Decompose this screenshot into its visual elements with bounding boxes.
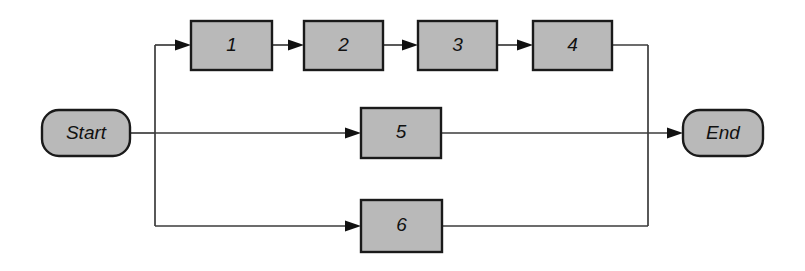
node-start[interactable]: Start xyxy=(42,110,130,156)
node-task-5[interactable]: 5 xyxy=(361,108,441,158)
arrowhead-into-task-6 xyxy=(345,221,361,232)
arrowhead-into-end xyxy=(667,128,683,139)
diagram-canvas: Start End 1 2 3 4 5 xyxy=(0,0,805,271)
node-end[interactable]: End xyxy=(683,110,763,156)
task-3-label: 3 xyxy=(452,34,463,55)
node-task-6[interactable]: 6 xyxy=(361,200,442,252)
task-2-label: 2 xyxy=(337,34,349,55)
task-5-label: 5 xyxy=(396,121,407,142)
arrowhead-into-task-5 xyxy=(345,128,361,139)
node-task-3[interactable]: 3 xyxy=(418,21,497,70)
node-task-4[interactable]: 4 xyxy=(533,21,612,70)
arrowhead-into-task-4 xyxy=(517,40,533,51)
task-6-label: 6 xyxy=(396,214,407,235)
node-task-2[interactable]: 2 xyxy=(304,21,383,70)
arrowhead-into-task-3 xyxy=(402,40,418,51)
node-task-1[interactable]: 1 xyxy=(191,21,272,70)
end-node-label: End xyxy=(706,122,741,143)
flow-diagram: Start End 1 2 3 4 5 xyxy=(0,0,805,271)
arrowhead-into-task-2 xyxy=(288,40,304,51)
task-1-label: 1 xyxy=(226,34,237,55)
arrowhead-into-task-1 xyxy=(175,40,191,51)
task-4-label: 4 xyxy=(567,34,578,55)
start-node-label: Start xyxy=(66,122,107,143)
